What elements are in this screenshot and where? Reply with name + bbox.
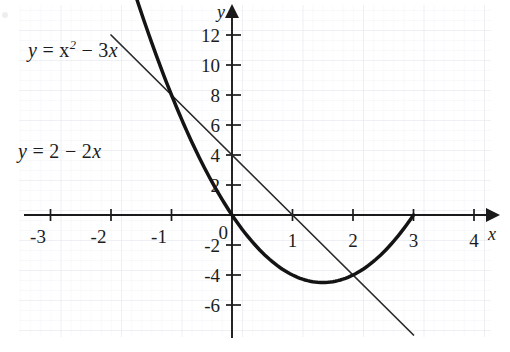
y-tick-label: 8 <box>211 85 221 106</box>
x-tick-label: 3 <box>409 230 419 251</box>
graph-figure: -3 -2 -1 1 2 3 4 12 10 8 6 4 2 -2 -4 -6 … <box>0 0 510 352</box>
line-label-y: y <box>18 140 27 162</box>
y-axis-label: y <box>215 2 225 22</box>
x-axis-label: x <box>487 224 496 244</box>
line-label-body: = 2 − 2 <box>27 140 92 162</box>
y-tick-label: -6 <box>204 295 220 316</box>
x-tick-label: -3 <box>30 226 46 247</box>
y-tick-label: 6 <box>211 115 221 136</box>
y-tick-label: -4 <box>204 265 220 286</box>
parabola-label-var: x <box>109 39 118 61</box>
parabola-label-body: = x <box>37 39 69 61</box>
x-tick-label: 4 <box>469 230 479 251</box>
x-tick-label: 1 <box>288 230 298 251</box>
parabola-equation-label: y = x2 − 3x <box>28 38 118 62</box>
line-equation-label: y = 2 − 2x <box>18 140 101 163</box>
y-tick-label: 10 <box>201 55 220 76</box>
parabola-label-y: y <box>28 39 37 61</box>
x-tick-label: -1 <box>151 226 167 247</box>
line-label-var: x <box>92 140 101 162</box>
x-axis-arrowhead <box>486 208 500 222</box>
y-tick-label: 4 <box>211 145 221 166</box>
origin-label: 0 <box>219 222 229 243</box>
x-tick-label: 2 <box>348 230 358 251</box>
x-tick-label: -2 <box>91 226 107 247</box>
parabola-label-tail: − 3 <box>76 39 108 61</box>
y-tick-label: 12 <box>201 25 220 46</box>
